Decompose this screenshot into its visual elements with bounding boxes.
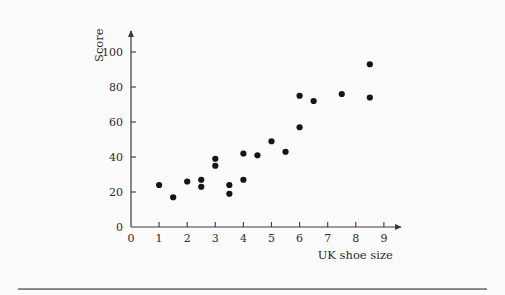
- x-axis-tick-label: 9: [380, 232, 387, 245]
- data-point: [212, 156, 218, 162]
- scatter-plot-figure: 0123456789020406080100UK shoe sizeScore: [0, 0, 505, 295]
- x-axis-tick-label: 5: [268, 232, 275, 245]
- plot-canvas: 0123456789020406080100UK shoe sizeScore: [0, 0, 505, 295]
- data-point: [198, 177, 204, 183]
- x-axis-tick-label: 3: [212, 232, 219, 245]
- y-axis-tick-label: 0: [116, 221, 123, 234]
- x-axis-tick-label: 0: [128, 232, 135, 245]
- data-point: [367, 61, 373, 67]
- data-point: [254, 152, 260, 158]
- data-point: [240, 177, 246, 183]
- data-point: [156, 182, 162, 188]
- data-point: [311, 98, 317, 104]
- data-point: [226, 182, 232, 188]
- data-point: [170, 194, 176, 200]
- data-point: [198, 184, 204, 190]
- data-point: [240, 150, 246, 156]
- data-point: [339, 91, 345, 97]
- x-axis-label: UK shoe size: [318, 248, 393, 262]
- y-axis-tick-label: 40: [109, 151, 123, 164]
- y-axis-tick-label: 20: [109, 186, 123, 199]
- data-point: [212, 163, 218, 169]
- y-axis-tick-label: 60: [109, 116, 123, 129]
- data-point: [268, 138, 274, 144]
- x-axis-tick-label: 7: [324, 232, 331, 245]
- data-point: [282, 149, 288, 155]
- x-axis-tick-label: 1: [156, 232, 163, 245]
- x-axis-tick-label: 4: [240, 232, 247, 245]
- data-point: [296, 93, 302, 99]
- bottom-divider: [18, 288, 487, 290]
- x-axis-tick-label: 8: [352, 232, 359, 245]
- data-point: [184, 178, 190, 184]
- y-axis-tick-label: 80: [109, 81, 123, 94]
- y-axis-label: Score: [92, 28, 106, 62]
- x-axis-tick-label: 2: [184, 232, 191, 245]
- x-axis-tick-label: 6: [296, 232, 303, 245]
- data-point: [367, 94, 373, 100]
- data-point: [226, 191, 232, 197]
- data-point: [296, 124, 302, 130]
